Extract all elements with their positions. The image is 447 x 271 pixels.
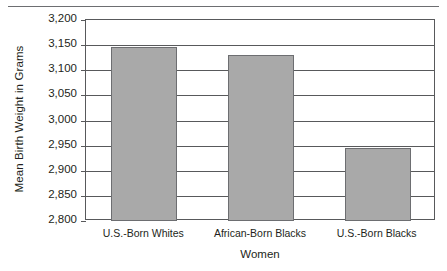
y-axis-tick (81, 70, 86, 71)
y-axis-tick-label: 3,150 (31, 38, 77, 50)
y-axis-title: Mean Birth Weight in Grams (13, 14, 25, 224)
y-axis-tick (81, 95, 86, 96)
top-divider-rule (8, 6, 439, 7)
y-axis-tick (81, 221, 86, 222)
y-axis-tick-label: 3,050 (31, 88, 77, 100)
y-axis-tick (81, 121, 86, 122)
y-axis-tick (81, 45, 86, 46)
y-axis-tick (81, 20, 86, 21)
chart-figure: Mean Birth Weight in Grams 3,2003,1503,1… (0, 0, 447, 271)
bar (345, 148, 411, 221)
y-axis-tick-label: 3,200 (31, 13, 77, 25)
y-axis-tick (81, 146, 86, 147)
y-axis-tick-label: 3,100 (31, 63, 77, 75)
bar (111, 47, 177, 221)
y-axis-tick-label: 2,850 (31, 189, 77, 201)
y-axis-tick-label: 2,950 (31, 139, 77, 151)
bar (228, 55, 294, 221)
y-axis-tick-label: 2,900 (31, 164, 77, 176)
plot-area (85, 19, 435, 220)
x-axis-category-label: U.S.-Born Blacks (318, 227, 435, 239)
y-axis-tick (81, 196, 86, 197)
x-axis-category-label: U.S.-Born Whites (85, 227, 202, 239)
y-axis-tick (81, 171, 86, 172)
y-axis-tick-label: 2,800 (31, 214, 77, 226)
gridline (86, 45, 434, 46)
x-axis-title: Women (85, 248, 435, 260)
x-axis-category-label: African-Born Blacks (202, 227, 319, 239)
y-axis-tick-label: 3,000 (31, 114, 77, 126)
